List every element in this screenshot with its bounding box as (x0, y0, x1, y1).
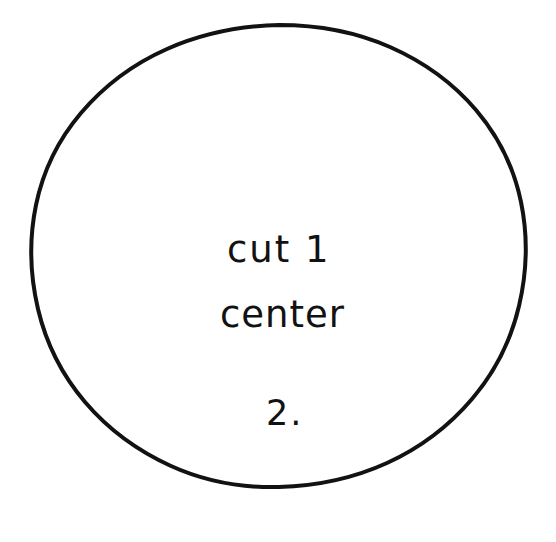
circle-outline-drawing (0, 0, 556, 542)
annotation-piece-number: 2. (266, 396, 303, 431)
annotation-cut-instruction: cut 1 (227, 231, 331, 268)
annotation-placement-note: center (220, 296, 345, 333)
pattern-sheet: cut 1 center 2. (0, 0, 556, 542)
